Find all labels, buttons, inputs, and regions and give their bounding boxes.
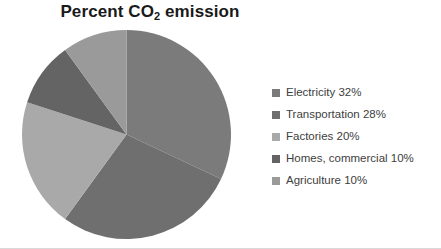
- legend-item-label: Factories 20%: [286, 130, 360, 143]
- chart-legend: Electricity 32%Transportation 28%Factori…: [272, 82, 437, 192]
- legend-swatch-icon: [272, 111, 280, 119]
- legend-item-label: Homes, commercial 10%: [286, 152, 414, 165]
- pie-svg: [22, 30, 231, 239]
- legend-swatch-icon: [272, 177, 280, 185]
- chart-title: Percent CO2 emission: [0, 2, 300, 22]
- legend-item[interactable]: Factories 20%: [272, 126, 437, 147]
- legend-item[interactable]: Electricity 32%: [272, 82, 437, 103]
- legend-item-label: Electricity 32%: [286, 86, 361, 99]
- chart-title-subscript: 2: [154, 10, 160, 22]
- legend-item-label: Agriculture 10%: [286, 174, 367, 187]
- legend-swatch-icon: [272, 89, 280, 97]
- pie-chart-figure: Percent CO2 emission Electricity 32%Tran…: [0, 0, 441, 249]
- pie-slice-group: [22, 30, 231, 239]
- legend-swatch-icon: [272, 133, 280, 141]
- legend-item-label: Transportation 28%: [286, 108, 386, 121]
- chart-title-tail: emission: [160, 2, 239, 21]
- chart-title-main: Percent CO: [60, 2, 154, 21]
- legend-item[interactable]: Homes, commercial 10%: [272, 148, 437, 169]
- legend-swatch-icon: [272, 155, 280, 163]
- pie-plot-area: [22, 30, 231, 239]
- legend-item[interactable]: Agriculture 10%: [272, 170, 437, 191]
- legend-item[interactable]: Transportation 28%: [272, 104, 437, 125]
